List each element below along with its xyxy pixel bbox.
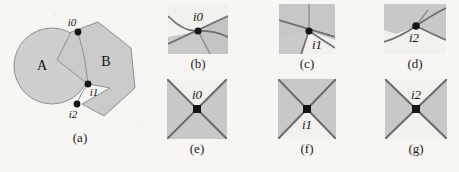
panel-c-svg: i1 (279, 4, 335, 54)
caption-f: (f) (278, 141, 336, 157)
panel-f-vertex-label: i1 (302, 117, 312, 132)
region-label-b: B (101, 54, 110, 69)
panel-b-svg: i0 (168, 4, 228, 54)
vertex-label-i0: i0 (68, 16, 77, 28)
panel-f-vertex (303, 105, 311, 113)
panel-d-diagram: i2 (384, 4, 446, 54)
caption-b: (b) (168, 56, 228, 72)
caption-c: (c) (279, 56, 335, 72)
shape-polygon-b (57, 22, 135, 116)
panel-e-svg: i0 (167, 79, 227, 139)
panel-a-diagram: A B i0 i1 i2 (0, 0, 160, 132)
panel-e-vertex-label: i0 (192, 87, 203, 102)
panel-c-vertex-label: i1 (312, 37, 322, 52)
panel-g-diagram: i2 (385, 79, 447, 139)
panel-g-svg: i2 (385, 79, 447, 139)
panel-d-vertex-label: i2 (409, 30, 420, 45)
figure-container: A B i0 i1 i2 (a) i0 (b) (0, 0, 459, 172)
caption-d: (d) (384, 56, 446, 72)
panel-c-diagram: i1 (279, 4, 335, 54)
vertex-i0 (75, 29, 82, 36)
panel-b-vertex-label: i0 (193, 9, 204, 24)
region-label-a: A (37, 58, 48, 73)
vertex-label-i1: i1 (90, 86, 99, 98)
vertex-i2 (74, 101, 81, 108)
panel-c-vertex (305, 27, 312, 34)
vertex-label-i2: i2 (69, 108, 78, 120)
panel-d-svg: i2 (384, 4, 446, 54)
panel-f-diagram: i1 (278, 79, 336, 139)
caption-e: (e) (167, 141, 227, 157)
panel-e-diagram: i0 (167, 79, 227, 139)
caption-a: (a) (40, 130, 120, 146)
panel-e-vertex (193, 105, 201, 113)
caption-g: (g) (385, 141, 447, 157)
panel-b-vertex (194, 27, 201, 34)
panel-d-vertex (412, 22, 420, 30)
panel-g-vertex-label: i2 (411, 87, 422, 102)
panel-g-vertex (412, 105, 420, 113)
panel-f-svg: i1 (278, 79, 336, 139)
panel-a-svg: A B i0 i1 i2 (0, 0, 160, 132)
panel-b-diagram: i0 (168, 4, 228, 54)
